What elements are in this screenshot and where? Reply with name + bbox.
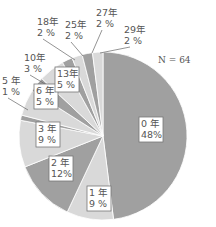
slice-label: 13年5 % <box>55 67 79 92</box>
slice-category: 0 年 <box>141 118 160 129</box>
leader-line <box>92 30 102 53</box>
slice-category: 6 年 <box>36 85 55 96</box>
slice-category: 13年 <box>57 68 79 79</box>
slice-category: 1 年 <box>89 187 108 198</box>
slice-category: 25年 <box>65 19 87 30</box>
slice-category: 29年 <box>124 24 146 35</box>
slice-label: 25年2 % <box>65 19 87 41</box>
slice-percent: 48% <box>141 129 162 140</box>
slice-category: 18年 <box>37 16 59 27</box>
slice-percent: 5 % <box>57 79 75 90</box>
slice-category: 27年 <box>96 7 118 18</box>
leader-line <box>100 47 130 53</box>
slice-percent: 3 % <box>24 63 42 74</box>
slice-label: 1 年9 % <box>87 186 111 211</box>
slice-label: 29年2 % <box>124 24 146 46</box>
slice-label: 0 年48% <box>139 117 163 142</box>
slice-percent: 2 % <box>124 35 142 46</box>
slice-percent: 5 % <box>36 96 54 107</box>
slice-label: 6 年5 % <box>34 84 58 109</box>
slice-percent: 2 % <box>37 27 55 38</box>
slice-category: 5 年 <box>2 75 21 86</box>
slice-label: 18年2 % <box>37 16 59 38</box>
slice-category: 3 年 <box>38 123 57 134</box>
slice-percent: 9 % <box>89 198 107 209</box>
slice-percent: 9 % <box>38 134 56 145</box>
slice-label: 2 年12% <box>49 156 73 181</box>
leader-line <box>71 42 83 56</box>
pie-chart: 0 年48%1 年9 %2 年12%3 年9 %5 年1 %6 年5 %10年3… <box>0 0 216 227</box>
slice-percent: 2 % <box>96 18 114 29</box>
slice-category: 2 年 <box>51 157 70 168</box>
slice-percent: 12% <box>51 168 72 179</box>
slice-label: 27年2 % <box>96 7 118 29</box>
sample-size-annotation: N = 64 <box>158 55 191 65</box>
slice-label: 10年3 % <box>24 52 46 74</box>
slice-percent: 1 % <box>2 86 20 97</box>
leader-line <box>43 39 75 60</box>
slice-label: 5 年1 % <box>2 75 21 97</box>
slice-label: 3 年9 % <box>36 122 60 147</box>
slice-category: 10年 <box>24 52 46 63</box>
slice-percent: 2 % <box>65 30 83 41</box>
